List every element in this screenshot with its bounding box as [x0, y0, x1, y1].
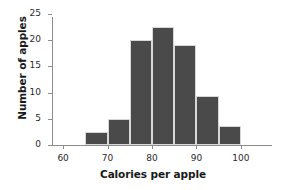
y-tick-label: 15 — [30, 60, 41, 70]
x-tick-label: 90 — [191, 153, 202, 163]
y-tick-label: 25 — [30, 8, 41, 18]
x-axis-line — [52, 145, 272, 146]
x-tick — [108, 145, 109, 149]
x-tick — [241, 145, 242, 149]
x-tick — [196, 145, 197, 149]
plot-area: 0510152025 60708090100 — [52, 14, 272, 145]
histogram-bar — [85, 132, 107, 145]
x-tick — [152, 145, 153, 149]
x-axis-title: Calories per apple — [48, 168, 258, 180]
y-tick-label: 0 — [35, 139, 41, 149]
x-tick-label: 70 — [102, 153, 113, 163]
y-tick-label: 10 — [30, 87, 41, 97]
histogram-bar — [196, 96, 218, 145]
x-tick-label: 100 — [232, 153, 249, 163]
y-tick: 0 — [48, 145, 52, 146]
histogram-bar — [174, 45, 196, 145]
y-axis-title: Number of apples — [16, 0, 28, 138]
bar-series — [52, 14, 272, 145]
y-tick-label: 20 — [30, 34, 41, 44]
x-tick-label: 60 — [57, 153, 68, 163]
x-tick-label: 80 — [146, 153, 157, 163]
histogram-bar — [219, 126, 241, 145]
histogram-bar — [152, 27, 174, 145]
histogram-figure: Number of apples Calories per apple 0510… — [0, 0, 299, 190]
histogram-bar — [130, 40, 152, 145]
y-tick-label: 5 — [35, 113, 41, 123]
x-tick — [63, 145, 64, 149]
histogram-bar — [108, 119, 130, 145]
